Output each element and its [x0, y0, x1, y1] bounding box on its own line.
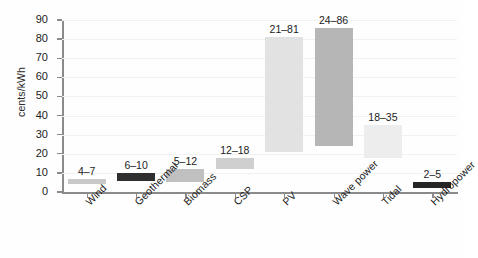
- y-tick-label: 40: [36, 109, 48, 122]
- y-tick-mark: [57, 96, 62, 97]
- bar-value-label: 4–7: [78, 165, 96, 177]
- y-tick-label: 20: [36, 147, 48, 160]
- bar-value-label: 18–35: [368, 111, 397, 123]
- gridline: [62, 116, 457, 117]
- y-tick-mark: [57, 134, 62, 135]
- bar-value-label: 6–10: [124, 159, 147, 171]
- bar: 24–86: [315, 28, 353, 146]
- bar: 6–10: [117, 173, 155, 181]
- y-tick-label: 70: [36, 51, 48, 64]
- gridline: [62, 96, 457, 97]
- plot-area: 4–76–105–1212–1821–8124–8618–352–5: [62, 20, 457, 192]
- gridline: [62, 39, 457, 40]
- y-tick-label: 60: [36, 70, 48, 83]
- y-tick-mark: [57, 77, 62, 78]
- y-tick-mark: [57, 38, 62, 39]
- y-tick-label: 80: [36, 32, 48, 45]
- bar-value-label: 12–18: [220, 144, 249, 156]
- y-tick-mark: [57, 153, 62, 154]
- gridline: [62, 58, 457, 59]
- y-tick-label: 90: [36, 13, 48, 26]
- y-tick-mark: [57, 19, 62, 20]
- y-axis-title: cents/kWh: [15, 49, 27, 135]
- bar: 21–81: [265, 37, 303, 152]
- bar-value-label: 21–81: [270, 23, 299, 35]
- bar-value-label: 2–5: [424, 168, 442, 180]
- bar: 12–18: [216, 158, 254, 169]
- y-tick-label: 30: [36, 128, 48, 141]
- y-tick-label: 0: [42, 185, 48, 198]
- bar: 18–35: [364, 125, 402, 157]
- gridline: [62, 77, 457, 78]
- gridline: [62, 20, 457, 21]
- y-tick-mark: [57, 191, 62, 192]
- y-tick-label: 50: [36, 89, 48, 102]
- y-tick-mark: [57, 115, 62, 116]
- bar-value-label: 24–86: [319, 14, 348, 26]
- y-tick-mark: [57, 58, 62, 59]
- y-tick-mark: [57, 172, 62, 173]
- y-tick-label: 10: [36, 166, 48, 179]
